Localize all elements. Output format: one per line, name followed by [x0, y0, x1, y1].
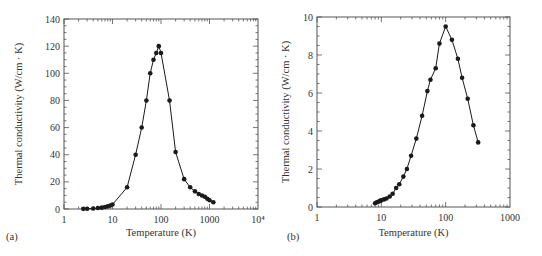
data-point [443, 24, 448, 29]
data-point [85, 206, 90, 211]
x-tick-label: 1 [62, 214, 67, 225]
data-point [154, 51, 159, 56]
data-point [476, 140, 481, 145]
data-point [433, 66, 438, 71]
y-tick-label: 40 [50, 149, 60, 160]
data-point [414, 136, 419, 141]
x-tick-label: 1000 [500, 212, 520, 223]
figure: 110100100010⁴020406080100120140Temperatu… [0, 0, 542, 256]
x-axis-label: Temperature (K) [378, 227, 449, 239]
y-tick-label: 8 [308, 50, 313, 61]
y-tick-label: 6 [308, 88, 313, 99]
data-point [394, 186, 399, 191]
x-tick-label: 10⁴ [251, 214, 265, 225]
y-tick-label: 0 [308, 202, 313, 213]
y-tick-label: 20 [50, 176, 60, 187]
data-point [405, 167, 410, 172]
data-point [390, 191, 395, 196]
y-tick-label: 2 [308, 164, 313, 175]
data-point [159, 51, 164, 56]
data-point [450, 38, 455, 43]
data-line [375, 27, 478, 204]
x-tick-label: 1000 [200, 214, 220, 225]
data-point [182, 177, 187, 182]
data-point [465, 96, 470, 101]
y-tick-label: 120 [45, 41, 60, 52]
x-tick-label: 10 [108, 214, 118, 225]
data-point [144, 98, 149, 103]
data-point [460, 76, 465, 81]
data-point [188, 185, 193, 190]
data-point [456, 57, 461, 62]
data-point [409, 153, 414, 158]
y-tick-label: 0 [55, 204, 60, 215]
data-point [167, 98, 172, 103]
data-point [110, 202, 115, 207]
plot-frame [64, 19, 258, 209]
x-tick-label: 10 [376, 212, 386, 223]
data-point [173, 150, 178, 155]
chart-panel-a: 110100100010⁴020406080100120140Temperatu… [6, 14, 265, 244]
x-tick-label: 1 [315, 212, 320, 223]
data-point [401, 174, 406, 179]
data-point [151, 57, 156, 62]
data-point [91, 206, 96, 211]
y-tick-label: 10 [303, 12, 313, 23]
data-point [437, 41, 442, 46]
data-point [471, 123, 476, 128]
data-point [397, 182, 402, 187]
y-tick-label: 100 [45, 68, 60, 79]
y-tick-label: 60 [50, 122, 60, 133]
data-point [420, 114, 425, 119]
data-point [125, 185, 130, 190]
data-point [425, 89, 430, 94]
data-line [83, 46, 213, 209]
data-point [139, 125, 144, 130]
y-tick-label: 4 [308, 126, 313, 137]
x-tick-label: 100 [154, 214, 169, 225]
data-point [148, 71, 153, 76]
data-point [193, 189, 198, 194]
y-axis-label: Thermal conductivity (W/cm · K) [280, 40, 292, 183]
y-tick-label: 140 [45, 14, 60, 25]
panel-label: (a) [6, 231, 18, 243]
y-axis-label: Thermal conductivity (W/cm · K) [13, 42, 25, 185]
data-point [133, 152, 138, 157]
plot-frame [317, 17, 510, 207]
figure-canvas: 110100100010⁴020406080100120140Temperatu… [0, 0, 542, 256]
data-point [428, 77, 433, 82]
chart-panel-b: 11010010000246810Temperature (K)Thermal … [280, 12, 520, 244]
panel-label: (b) [287, 231, 300, 243]
x-tick-label: 100 [438, 212, 453, 223]
data-point [156, 44, 161, 49]
x-axis-label: Temperature (K) [126, 227, 197, 239]
data-point [211, 200, 216, 205]
y-tick-label: 80 [50, 95, 60, 106]
